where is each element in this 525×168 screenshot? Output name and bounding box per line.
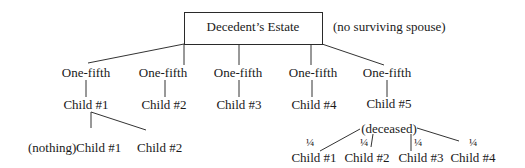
share-label: One-fifth (289, 66, 337, 80)
share-label: One-fifth (139, 66, 187, 80)
grandchild-label: Child #2 (137, 141, 182, 155)
child-label: Child #3 (216, 98, 261, 112)
child-label: Child #5 (366, 97, 411, 111)
grandchild-label: Child #3 (398, 151, 443, 165)
estate-label: Decedent’s Estate (207, 20, 300, 34)
child-label: Child #4 (291, 98, 336, 112)
grandchild-label: Child #4 (450, 151, 495, 165)
fraction-label: ¼ (469, 135, 477, 149)
share-label: One-fifth (214, 66, 262, 80)
fraction-label: ¼ (306, 135, 314, 149)
deceased-label: (deceased) (361, 122, 417, 136)
grandchild-label: Child #1 (291, 151, 336, 165)
nothing-label: (nothing) (28, 141, 76, 155)
grandchild-label: Child #1 (76, 141, 121, 155)
child-label: Child #2 (141, 98, 186, 112)
no-spouse-note: (no surviving spouse) (333, 20, 446, 34)
share-label: One-fifth (62, 66, 110, 80)
share-label: One-fifth (363, 66, 411, 80)
child-label: Child #1 (63, 98, 108, 112)
grandchild-label: Child #2 (344, 151, 389, 165)
fraction-label: ¼ (414, 135, 422, 149)
fraction-label: ¼ (360, 135, 368, 149)
